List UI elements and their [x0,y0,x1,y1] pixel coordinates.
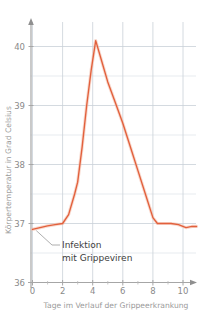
flu-temperature-chart-figure: 40 39 38 37 36 0 2 4 6 8 10 Körpertemper… [0,0,203,315]
y-tick-label-37: 37 [14,219,25,229]
y-tick-label-36: 36 [14,278,25,288]
annotation-line-1: Infektion [62,240,102,250]
annotation-leader-line [36,231,60,245]
axis-lines [28,18,197,288]
infection-annotation-leader [36,231,60,245]
annotation-line-2: mit Grippeviren [62,253,132,263]
x-tick-label-0: 0 [30,286,35,296]
x-tick-label-4: 4 [90,286,95,296]
y-tick-label-39: 39 [14,101,25,111]
grid-lines [31,22,197,283]
chart-canvas: 40 39 38 37 36 0 2 4 6 8 10 Körpertemper… [0,0,203,315]
y-tick-label-40: 40 [14,42,25,52]
x-tick-label-10: 10 [178,286,189,296]
x-tick-label-6: 6 [120,286,125,296]
y-axis-title: Körpertemperatur in Grad Celsius [4,106,13,234]
x-tick-labels: 0 2 4 6 8 10 [30,286,189,296]
y-axis-arrow-icon [28,18,34,25]
y-tick-labels: 40 39 38 37 36 [14,42,25,288]
x-tick-label-8: 8 [150,286,155,296]
x-axis-title: Tage im Verlauf der Grippeerkrankung [43,301,189,310]
x-tick-label-2: 2 [60,286,65,296]
y-tick-label-38: 38 [14,160,25,170]
infection-annotation: Infektion mit Grippeviren [62,240,132,263]
x-axis-arrow-icon [190,280,197,286]
